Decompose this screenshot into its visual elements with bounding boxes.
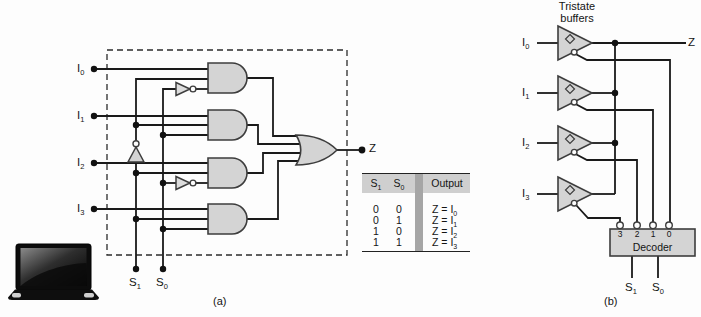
or-gate (296, 135, 337, 165)
tristate-buffer-2 (558, 126, 592, 160)
truth-table-col-output: Output (425, 177, 469, 189)
not-gate-s0-mid (176, 177, 196, 190)
cell-s0: 1 (389, 236, 409, 248)
caption-b: (b) (604, 295, 617, 308)
inverter-bubble (133, 141, 139, 147)
input-label-b-i3: I3 (522, 187, 529, 202)
output-label-z-b: Z (688, 36, 695, 49)
and-gate-4 (208, 204, 247, 234)
tristate-buffer-0 (558, 26, 592, 60)
truth-table-row: 1 1 Z = I3 (362, 236, 470, 248)
input-label-i0: I0 (77, 62, 84, 77)
enable-bubble (571, 200, 577, 206)
cell-s1: 1 (366, 236, 386, 248)
decoder-output-bubbles (617, 222, 673, 229)
select-label-b-s0: S0 (652, 281, 664, 296)
enable-bubble (571, 149, 577, 155)
input-label-b-i2: I2 (522, 136, 529, 151)
truth-table: S1 S0 Output 0 0 Z = I0 0 1 Z = I1 1 0 Z… (362, 173, 470, 252)
input-label-b-i0: I0 (522, 36, 529, 51)
select-label-b-s1: S1 (625, 281, 637, 296)
tristate-buffer-1 (558, 76, 592, 110)
inverter-bubble (190, 86, 196, 92)
and-gate-2 (208, 110, 247, 140)
input-label-i2: I2 (77, 156, 84, 171)
input-label-b-i1: I1 (522, 86, 529, 101)
tristate-buffer-3 (558, 177, 592, 211)
and-gate-3 (208, 158, 247, 188)
figure-multiplexer-diagrams: I0 I1 I2 I3 S1 S0 Z (a) S1 S0 Output 0 0… (0, 0, 701, 317)
output-label-z-a: Z (369, 142, 376, 155)
decoder-pin-0: 0 (664, 230, 674, 239)
input-label-i3: I3 (77, 202, 84, 217)
decoder-pin-1: 1 (648, 230, 658, 239)
decoder-pin-2: 2 (632, 230, 642, 239)
truth-table-col-s1: S1 (366, 177, 386, 191)
caption-a: (a) (213, 295, 226, 308)
and-gate-1 (208, 63, 247, 93)
tristate-buffers (558, 26, 592, 211)
inverter-bubble (190, 180, 196, 186)
select-label-s1: S1 (129, 276, 141, 291)
laptop-icon (8, 244, 99, 300)
decoder-pin-3: 3 (615, 230, 625, 239)
not-gate-s0-top (176, 83, 196, 96)
select-label-s0: S0 (156, 276, 168, 291)
mux-gate-circuit (91, 50, 366, 272)
enable-bubble (571, 49, 577, 55)
input-label-i1: I1 (77, 109, 84, 124)
figure-graphics (0, 0, 701, 317)
not-gate-s1 (128, 141, 144, 162)
tristate-buffers-title: Tristatebuffers (541, 1, 613, 24)
cell-output: Z = I3 (432, 236, 457, 250)
decoder-label: Decoder (610, 241, 695, 253)
truth-table-col-s0: S0 (389, 177, 409, 191)
enable-bubble (571, 99, 577, 105)
